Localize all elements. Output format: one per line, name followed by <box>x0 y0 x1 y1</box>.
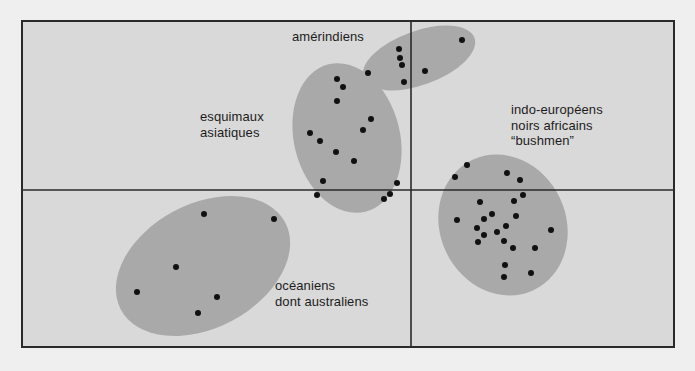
data-point <box>532 245 538 251</box>
label-line: “bushmen” <box>511 133 603 149</box>
data-point <box>513 213 519 219</box>
data-point <box>475 239 481 245</box>
data-point <box>397 55 403 61</box>
data-point <box>399 62 405 68</box>
data-point <box>454 217 460 223</box>
data-point <box>271 216 277 222</box>
label-line: noirs africains <box>511 118 603 134</box>
data-point <box>134 289 140 295</box>
label-line: amérindiens <box>292 29 364 45</box>
label-line: dont australiens <box>275 294 368 310</box>
data-point <box>503 223 509 229</box>
data-point <box>195 310 201 316</box>
data-point <box>334 98 340 104</box>
data-point <box>173 264 179 270</box>
data-point <box>452 174 458 180</box>
scatter-plot <box>0 0 695 371</box>
data-point <box>365 70 371 76</box>
data-point <box>459 37 465 43</box>
data-point <box>422 68 428 74</box>
cluster-label-amerindiens: amérindiens <box>292 29 364 45</box>
data-point <box>401 79 407 85</box>
data-point <box>314 192 320 198</box>
data-point <box>333 149 339 155</box>
data-point <box>214 294 220 300</box>
data-point <box>320 178 326 184</box>
data-point <box>502 262 508 268</box>
label-line: esquimaux <box>200 109 264 125</box>
data-point <box>481 216 487 222</box>
data-point <box>489 211 495 217</box>
data-point <box>360 127 366 133</box>
data-point <box>520 192 526 198</box>
cluster-label-esquimaux-asiatiques: esquimaux asiatiques <box>200 109 264 140</box>
data-point <box>201 211 207 217</box>
data-point <box>368 116 374 122</box>
data-point <box>317 138 323 144</box>
data-point <box>334 76 340 82</box>
label-line: indo-européens <box>511 102 603 118</box>
data-point <box>464 162 470 168</box>
cluster-label-indo-europeens: indo-européens noirs africains “bushmen” <box>511 102 603 149</box>
data-point <box>394 180 400 186</box>
data-point <box>481 232 487 238</box>
data-point <box>510 245 516 251</box>
data-point <box>504 170 510 176</box>
data-point <box>351 158 357 164</box>
data-point <box>501 274 507 280</box>
data-point <box>517 177 523 183</box>
data-point <box>307 130 313 136</box>
data-point <box>501 238 507 244</box>
data-point <box>387 191 393 197</box>
label-line: océaniens <box>275 278 368 294</box>
data-point <box>477 199 483 205</box>
data-point <box>511 198 517 204</box>
data-point <box>548 227 554 233</box>
cluster-diagram: amérindiens esquimaux asiatiques indo-eu… <box>0 0 695 371</box>
data-point <box>494 229 500 235</box>
cluster-label-oceaniens: océaniens dont australiens <box>275 278 368 309</box>
data-point <box>474 225 480 231</box>
label-line: asiatiques <box>200 125 264 141</box>
data-point <box>528 270 534 276</box>
data-point <box>340 84 346 90</box>
data-point <box>396 46 402 52</box>
data-point <box>381 196 387 202</box>
